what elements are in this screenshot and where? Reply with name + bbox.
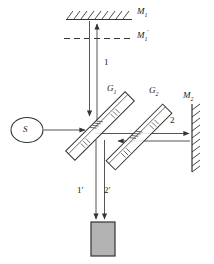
figure-canvas: M1 M1′ M2 G1 G2 S 1 2 1′ 2′ (0, 0, 214, 264)
mirror-m2 (192, 104, 200, 172)
label-mirror-m1-prime-mark: ′ (148, 29, 149, 35)
label-plate-g1-sub: 1 (114, 89, 117, 95)
label-mirror-m1-prime-letter: M (137, 30, 145, 40)
detector-screen (91, 222, 115, 256)
label-plate-g2: G2 (149, 86, 159, 97)
ray-output-beams (96, 140, 105, 219)
label-mirror-m1-prime: M1′ (137, 29, 149, 42)
label-mirror-m2-letter: M (183, 90, 191, 100)
label-ray-2: 2 (170, 116, 175, 125)
label-source-s: S (23, 125, 28, 134)
ray-vertical-arm (90, 21, 98, 128)
optical-diagram-svg (0, 0, 214, 264)
label-mirror-m1: M1 (137, 7, 148, 18)
label-plate-g1: G1 (107, 84, 117, 95)
label-ray-2-prime: 2′ (104, 186, 110, 195)
label-mirror-m1-sub: 1 (145, 12, 148, 18)
mirror-m1 (66, 11, 132, 20)
label-mirror-m1-letter: M (137, 6, 145, 16)
label-mirror-m1-prime-sub: 1 (145, 36, 148, 42)
label-ray-1: 1 (104, 58, 109, 67)
label-mirror-m2: M2 (183, 91, 194, 102)
label-ray-1-prime: 1′ (77, 186, 83, 195)
label-mirror-m2-sub: 2 (191, 96, 194, 102)
label-plate-g2-sub: 2 (156, 91, 159, 97)
